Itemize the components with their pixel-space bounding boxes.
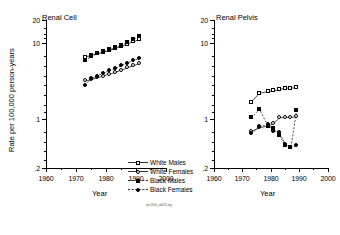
data-point-marker <box>83 83 87 87</box>
data-point-marker <box>119 43 123 47</box>
data-point-marker <box>113 70 117 74</box>
legend-item-label: White Females <box>150 167 193 176</box>
legend-marker <box>136 170 140 174</box>
data-point-marker <box>119 68 123 72</box>
legend-item-label: Black Females <box>150 185 193 194</box>
chart-panel-renal-pelvis: Renal Pelvis 20 10 1 .2 1960 1970 1980 1… <box>186 0 335 235</box>
data-point-marker <box>137 56 141 60</box>
legend-symbol-open-circle-icon <box>128 167 148 176</box>
legend-item: Black Males <box>128 176 192 185</box>
data-point-marker <box>249 100 253 104</box>
data-point-marker <box>95 51 99 55</box>
legend-item: Black Females <box>128 185 192 194</box>
data-point-marker <box>283 115 287 119</box>
legend-marker <box>136 179 140 183</box>
data-point-marker <box>137 34 141 38</box>
data-point-marker <box>266 89 270 93</box>
legend-marker <box>136 161 140 165</box>
series-lines-right <box>186 0 335 235</box>
legend-item-label: White Males <box>150 158 186 167</box>
data-point-marker <box>83 58 87 62</box>
data-point-marker <box>283 142 287 146</box>
legend-symbol-open-square-icon <box>128 158 148 167</box>
legend-symbol-filled-square-icon <box>128 176 148 185</box>
data-point-marker <box>89 76 93 80</box>
data-point-marker <box>107 72 111 76</box>
data-point-marker <box>257 91 261 95</box>
figure-microcaption: rpc1306_ab025.org <box>146 203 172 207</box>
chart-panel-renal-cell: Renal Cell Rate per 100,000 person-years… <box>0 0 186 235</box>
data-point-marker <box>294 85 298 89</box>
data-point-marker <box>95 74 99 78</box>
legend-item: White Males <box>128 158 192 167</box>
data-point-marker <box>107 47 111 51</box>
data-point-marker <box>89 54 93 58</box>
data-point-marker <box>271 88 275 92</box>
data-point-marker <box>294 108 298 112</box>
legend-item: White Females <box>128 167 192 176</box>
data-point-marker <box>101 49 105 53</box>
legend-symbol-filled-circle-icon <box>128 185 148 194</box>
data-point-marker <box>113 66 117 70</box>
legend-marker <box>136 188 140 192</box>
data-point-marker <box>257 107 261 111</box>
data-point-marker <box>119 63 123 67</box>
legend-item-label: Black Males <box>150 176 185 185</box>
data-point-marker <box>125 40 129 44</box>
data-point-marker <box>266 122 270 126</box>
chart-legend: White MalesWhite FemalesBlack MalesBlack… <box>128 158 192 194</box>
series-lines-left <box>0 0 186 235</box>
data-point-marker <box>101 71 105 75</box>
data-point-marker <box>249 131 253 135</box>
data-point-marker <box>131 37 135 41</box>
data-point-marker <box>131 63 135 67</box>
data-point-marker <box>283 86 287 90</box>
data-point-marker <box>125 61 129 65</box>
data-point-marker <box>131 58 135 62</box>
data-point-marker <box>288 86 292 90</box>
data-point-marker <box>249 115 253 119</box>
data-point-marker <box>277 87 281 91</box>
data-point-marker <box>113 45 117 49</box>
